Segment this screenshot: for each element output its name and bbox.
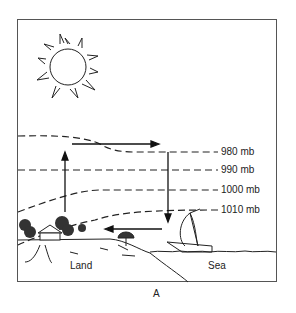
isobar-label-990: 990 mb [221,164,254,175]
isobar-label-1000: 1000 mb [221,184,260,195]
left-arrow-icon [105,226,113,232]
isobar-1000 [18,190,218,212]
up-arrow-icon [62,152,68,160]
down-arrow-icon [165,214,171,222]
figure-caption: A [153,288,160,299]
umbrella-icon [118,232,134,246]
sea-surface [150,251,276,252]
land-icon [18,239,188,282]
sun-icon [37,34,98,98]
sailboat-icon [167,209,212,252]
isobar-label-1010: 1010 mb [221,204,260,215]
sea-label: Sea [208,260,226,271]
circulation-arrows [62,141,171,232]
land-label: Land [70,260,92,271]
right-arrow-icon [151,141,159,147]
isobar-label-980: 980 mb [221,146,254,157]
